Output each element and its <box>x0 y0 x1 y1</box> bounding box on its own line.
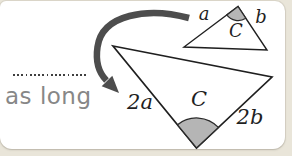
small-triangle-angle-label: C <box>229 20 243 41</box>
page-background: as long a b C 2a 2b C <box>0 0 292 156</box>
small-triangle-side-b-label: b <box>255 6 267 27</box>
small-triangle-side-a-label: a <box>199 3 210 24</box>
small-triangle-angle-wedge <box>227 7 246 21</box>
large-triangle-side-b-label: 2b <box>236 105 264 129</box>
similar-triangles-diagram: a b C 2a 2b C <box>0 0 292 156</box>
large-triangle-side-a-label: 2a <box>126 90 153 114</box>
large-triangle-angle-wedge <box>178 118 219 148</box>
large-triangle-angle-label: C <box>191 87 207 111</box>
